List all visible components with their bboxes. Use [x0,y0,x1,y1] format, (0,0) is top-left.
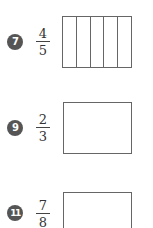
problem-number-badge: 9 [7,120,23,136]
problem-number-badge: 7 [7,34,23,50]
fraction-numerator: 7 [36,199,50,212]
fraction-denominator: 5 [36,44,50,57]
rectangle-section [104,17,118,67]
fraction-numerator: 2 [36,113,50,126]
rectangle-section [118,17,131,67]
fraction-bar [36,213,50,214]
rectangle-section [63,17,77,67]
fraction: 4 5 [36,27,50,57]
problem-number-badge: 11 [7,205,23,221]
fraction-bar [36,41,50,42]
fraction-denominator: 3 [36,130,50,143]
rectangle-section [91,17,105,67]
fraction: 7 8 [36,199,50,228]
fraction-model-rectangle [62,16,132,68]
fraction-model-rectangle [63,192,132,228]
fraction-denominator: 8 [36,216,50,228]
fraction-numerator: 4 [36,27,50,40]
rectangle-section [77,17,91,67]
fraction-bar [36,127,50,128]
fraction-model-rectangle [63,102,132,154]
fraction: 2 3 [36,113,50,143]
